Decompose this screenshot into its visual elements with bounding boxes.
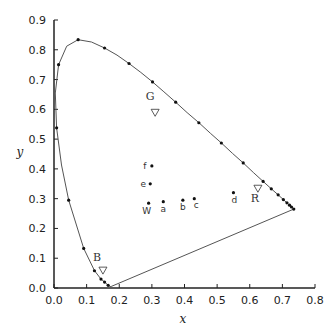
spectral-locus	[55, 38, 295, 287]
purple-line	[111, 209, 294, 286]
y-tick-label: 0.4	[29, 163, 47, 176]
y-tick-label: 0.5	[29, 133, 47, 146]
y-tick-label: 0.3	[29, 193, 47, 206]
point-label: c	[194, 200, 199, 210]
x-tick-label: 0.8	[306, 294, 324, 307]
point-label: f	[143, 161, 147, 171]
x-tick-label: 0.2	[111, 294, 129, 307]
locus-marker	[93, 269, 96, 272]
locus-marker	[99, 277, 102, 280]
point-label: b	[180, 202, 186, 212]
point-label: W	[142, 206, 151, 216]
x-tick-label: 0.1	[78, 294, 96, 307]
x-tick-label: 0.4	[176, 294, 194, 307]
point-label: d	[232, 195, 238, 205]
locus-marker	[127, 62, 130, 65]
axes: 0.00.10.20.30.40.50.60.70.80.00.10.20.30…	[29, 14, 324, 307]
locus-marker	[151, 80, 154, 83]
data-points: feWabcd	[140, 161, 237, 216]
locus-marker	[107, 284, 110, 287]
y-tick-label: 0.7	[29, 74, 47, 87]
x-tick-label: 0.5	[208, 294, 226, 307]
locus-marker	[220, 141, 223, 144]
chromaticity-chart: 0.00.10.20.30.40.50.60.70.80.00.10.20.30…	[0, 0, 335, 335]
locus-marker	[67, 199, 70, 202]
data-point	[149, 182, 152, 185]
locus-marker	[103, 46, 106, 49]
x-tick-label: 0.6	[241, 294, 259, 307]
locus-marker	[282, 198, 285, 201]
locus-marker	[277, 193, 280, 196]
point-label: a	[161, 204, 167, 214]
locus-marker	[197, 121, 200, 124]
primaries: GRB	[93, 90, 262, 274]
point-label: e	[140, 179, 146, 189]
locus-marker	[55, 126, 58, 129]
primary-label: G	[146, 90, 155, 103]
primary-label: R	[251, 192, 260, 205]
primary-label: B	[93, 251, 101, 264]
y-tick-label: 0.6	[29, 103, 47, 116]
y-tick-label: 0.8	[29, 44, 47, 57]
x-axis-title: x	[180, 312, 187, 326]
data-point	[147, 202, 150, 205]
primary-triangle-marker	[99, 267, 107, 274]
primary-triangle-marker	[151, 109, 159, 116]
locus-marker	[242, 161, 245, 164]
data-point	[150, 164, 153, 167]
x-tick-label: 0.0	[45, 294, 63, 307]
x-tick-label: 0.3	[143, 294, 161, 307]
locus-marker	[82, 247, 85, 250]
locus-marker	[103, 280, 106, 283]
y-tick-label: 0.9	[29, 14, 47, 27]
locus-marker	[262, 180, 265, 183]
locus-marker	[57, 63, 60, 66]
y-tick-label: 0.1	[29, 252, 47, 265]
locus-marker	[270, 187, 273, 190]
locus-marker	[292, 207, 295, 210]
locus-curve	[55, 40, 293, 287]
y-tick-label: 0.2	[29, 222, 47, 235]
y-tick-label: 0.0	[29, 282, 47, 295]
locus-marker	[77, 38, 80, 41]
locus-marker	[285, 201, 288, 204]
x-tick-label: 0.7	[274, 294, 292, 307]
primary-triangle-marker	[254, 185, 262, 192]
y-axis-title: y	[16, 145, 24, 159]
locus-marker	[174, 101, 177, 104]
